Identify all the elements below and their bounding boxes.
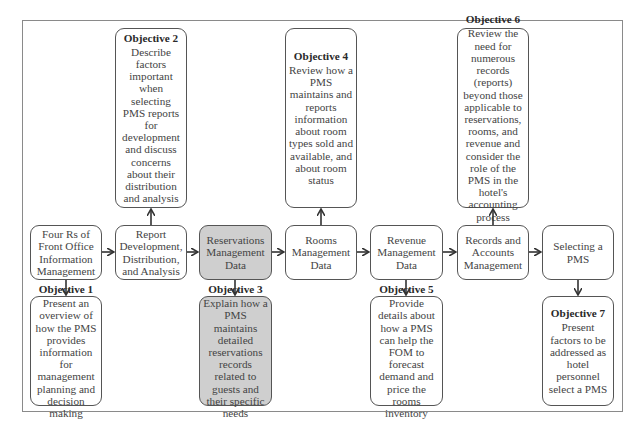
objective-7-box: Objective 7 Present factors to be addres… [542,296,614,406]
objective-2-desc: Describe factors important when selectin… [119,46,183,205]
objective-3-title: Objective 3 [208,283,262,295]
topic-selecting: Selecting a PMS [542,225,614,280]
objective-2-box: Objective 2 Describe factors important w… [115,28,187,208]
topic-revenue-label: Revenue Management Data [374,234,439,271]
topic-records-label: Records and Accounts Management [461,234,525,271]
objective-6-title: Objective 6 [466,13,520,25]
objective-6-desc: Review the need for numerous records (re… [461,27,525,222]
objective-5-desc: Provide details about how a PMS can help… [374,297,439,419]
topic-rooms-label: Rooms Management Data [289,234,353,271]
topic-four-rs: Four Rs of Front Office Information Mana… [30,225,102,280]
topic-records: Records and Accounts Management [457,225,529,280]
topic-reservations-label: Reservations Management Data [203,234,268,271]
topic-selecting-label: Selecting a PMS [546,240,610,265]
objective-3-box: Objective 3 Explain how a PMS maintains … [199,296,272,406]
objective-1-box: Objective 1 Present an overview of how t… [30,296,102,406]
objective-7-title: Objective 7 [551,307,605,319]
objective-5-title: Objective 5 [379,283,433,295]
topic-report-development: Report Development, Distribution, and An… [115,225,187,280]
objective-2-title: Objective 2 [124,32,178,44]
objective-7-desc: Present factors to be addressed as hotel… [546,321,610,394]
topic-four-rs-label: Four Rs of Front Office Information Mana… [34,228,98,278]
objective-3-desc: Explain how a PMS maintains detailed res… [203,297,268,419]
topic-report-development-label: Report Development, Distribution, and An… [119,228,183,278]
objective-4-title: Objective 4 [294,50,348,62]
objective-1-title: Objective 1 [39,283,93,295]
objective-6-box: Objective 6 Review the need for numerous… [457,28,529,208]
topic-rooms: Rooms Management Data [285,225,357,280]
objective-1-desc: Present an overview of how the PMS provi… [34,297,98,419]
objective-5-box: Objective 5 Provide details about how a … [370,296,443,406]
topic-reservations: Reservations Management Data [199,225,272,280]
topic-revenue: Revenue Management Data [370,225,443,280]
objective-4-desc: Review how a PMS maintains and reports i… [289,64,353,186]
objective-4-box: Objective 4 Review how a PMS maintains a… [285,28,357,208]
